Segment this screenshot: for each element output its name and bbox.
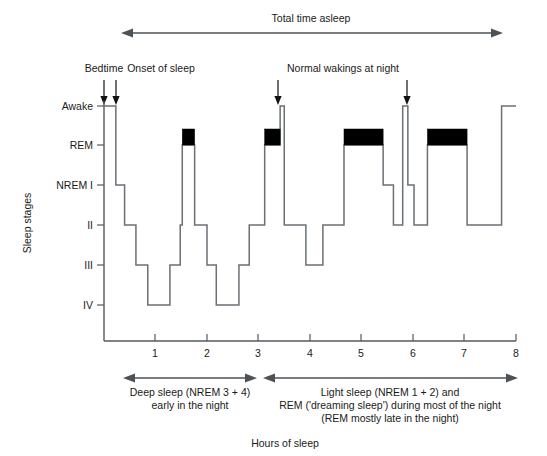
- light-sleep-annotation: Light sleep (NREM 1 + 2) and REM ('dream…: [263, 374, 518, 425]
- total-time-asleep-annotation: Total time asleep: [121, 12, 503, 38]
- normal-wakings-pointer-arrow-1: [274, 96, 281, 105]
- total-time-asleep-arrow-left: [121, 29, 133, 38]
- rem-period-bars: [182, 129, 467, 145]
- y-label-nrem-i: NREM I: [56, 179, 93, 191]
- deep-sleep-arrow-left: [123, 374, 135, 383]
- onset-of-sleep-annotation: Onset of sleep: [112, 62, 195, 105]
- light-sleep-label-line3: (REM mostly late in the night): [321, 412, 459, 424]
- bedtime-label: Bedtime: [85, 62, 124, 74]
- x-axis: 1 2 3 4 5 6 7 8: [104, 334, 519, 359]
- light-sleep-arrow-right: [506, 374, 518, 383]
- sleep-hypnogram-figure: Total time asleep Bedtime Onset of sleep…: [0, 0, 547, 456]
- y-axis: Awake REM NREM I II III IV Sleep stages: [21, 100, 104, 341]
- x-label-3: 3: [255, 347, 261, 359]
- normal-wakings-label: Normal wakings at night: [287, 62, 399, 74]
- y-label-rem: REM: [70, 139, 93, 151]
- light-sleep-label-line2: REM ('dreaming sleep') during most of th…: [279, 399, 501, 411]
- deep-sleep-label-line2: early in the night: [151, 399, 228, 411]
- total-time-asleep-label: Total time asleep: [272, 12, 351, 24]
- y-axis-title: Sleep stages: [21, 193, 33, 254]
- x-label-1: 1: [152, 347, 158, 359]
- light-sleep-arrow-left: [263, 374, 275, 383]
- normal-wakings-pointer-arrow-2: [403, 96, 410, 105]
- deep-sleep-label-line1: Deep sleep (NREM 3 + 4): [130, 386, 251, 398]
- x-axis-title: Hours of sleep: [251, 437, 319, 449]
- deep-sleep-arrow-right: [245, 374, 257, 383]
- x-label-2: 2: [204, 347, 210, 359]
- y-label-iii: III: [84, 259, 93, 271]
- deep-sleep-annotation: Deep sleep (NREM 3 + 4) early in the nig…: [123, 374, 257, 412]
- rem-bar-2: [265, 129, 280, 145]
- y-label-iv: IV: [83, 299, 93, 311]
- y-label-ii: II: [87, 219, 93, 231]
- light-sleep-label-line1: Light sleep (NREM 1 + 2) and: [321, 386, 460, 398]
- x-label-6: 6: [410, 347, 416, 359]
- x-label-5: 5: [358, 347, 364, 359]
- x-label-7: 7: [461, 347, 467, 359]
- total-time-asleep-arrow-right: [491, 29, 503, 38]
- rem-bar-4: [427, 129, 467, 145]
- onset-of-sleep-pointer-arrow: [112, 96, 119, 105]
- x-label-8: 8: [513, 347, 519, 359]
- onset-of-sleep-label: Onset of sleep: [127, 62, 195, 74]
- normal-wakings-annotation: Normal wakings at night: [274, 62, 410, 105]
- x-label-4: 4: [307, 347, 313, 359]
- rem-bar-1: [182, 129, 194, 145]
- y-label-awake: Awake: [62, 100, 93, 112]
- rem-bar-3: [344, 129, 383, 145]
